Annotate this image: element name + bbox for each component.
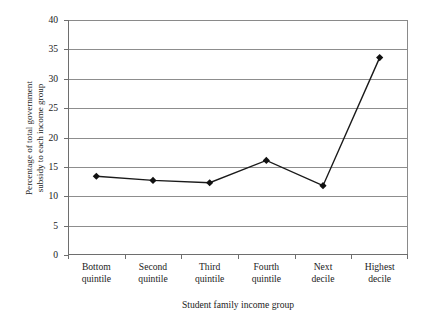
y-tick-label: 25 bbox=[36, 103, 58, 113]
y-tick-label: 15 bbox=[36, 162, 58, 172]
x-tick-mark bbox=[238, 255, 239, 259]
x-tick-mark bbox=[295, 255, 296, 259]
data-point-marker bbox=[149, 177, 156, 184]
y-tick-label: 0 bbox=[36, 250, 58, 260]
x-tick-mark bbox=[68, 255, 69, 259]
data-point-marker bbox=[206, 179, 213, 186]
data-point-marker bbox=[376, 54, 383, 61]
y-axis-title-line-1: Percentage of total government bbox=[24, 81, 35, 195]
y-tick-label: 20 bbox=[36, 133, 58, 143]
y-tick-label: 35 bbox=[36, 44, 58, 54]
x-tick-mark bbox=[351, 255, 352, 259]
x-tick-mark bbox=[125, 255, 126, 259]
x-tick-mark bbox=[407, 255, 408, 259]
x-category-label: Highestdecile bbox=[351, 261, 408, 284]
x-category-label: Thirdquintile bbox=[181, 261, 238, 284]
data-point-marker bbox=[93, 173, 100, 180]
x-category-label: Bottomquintile bbox=[68, 261, 125, 284]
x-tick-mark bbox=[181, 255, 182, 259]
y-tick-label: 5 bbox=[36, 221, 58, 231]
data-series-line bbox=[68, 20, 408, 255]
plot-area bbox=[68, 20, 408, 255]
data-point-marker bbox=[319, 182, 326, 189]
x-category-label: Secondquintile bbox=[125, 261, 182, 284]
x-axis-title: Student family income group bbox=[68, 299, 408, 310]
series-polyline bbox=[96, 58, 379, 186]
y-tick-label: 10 bbox=[36, 191, 58, 201]
y-tick-label: 40 bbox=[36, 15, 58, 25]
x-category-label: Fourthquintile bbox=[238, 261, 295, 284]
line-chart-figure: Percentage of total government subsidy t… bbox=[0, 0, 441, 323]
x-category-label: Nextdecile bbox=[295, 261, 352, 284]
y-tick-label: 30 bbox=[36, 74, 58, 84]
data-point-marker bbox=[263, 157, 270, 164]
